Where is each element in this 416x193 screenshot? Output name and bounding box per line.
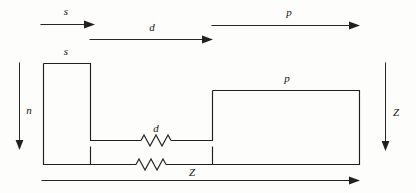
label-top-p: p	[285, 6, 292, 18]
arrowhead-bottom-z	[349, 177, 360, 185]
label-left-box-s: s	[64, 45, 68, 57]
arrowhead-p	[349, 22, 360, 30]
upper-zigzag-resistor	[141, 135, 171, 146]
schematic-diagram: s d p s p n Z d Z	[0, 0, 416, 193]
arrowhead-d	[202, 36, 213, 44]
top-dimension-arrow-p	[212, 22, 360, 30]
right-vertical-arrow-z	[382, 63, 390, 151]
label-vertical-z: Z	[393, 106, 400, 118]
right-rectangle	[213, 91, 360, 165]
label-vertical-n: n	[26, 104, 32, 116]
arrowhead-n	[16, 140, 24, 150]
lower-zigzag-resistor	[136, 159, 166, 170]
upper-connector-line	[90, 135, 213, 146]
diagram-canvas: s d p s p n Z d Z	[0, 0, 416, 193]
arrowhead-right-z	[382, 141, 390, 151]
left-rectangle	[44, 64, 91, 165]
label-right-box-p: p	[283, 72, 290, 84]
label-bottom-z: Z	[189, 166, 196, 178]
left-vertical-arrow-n	[16, 63, 24, 150]
label-connector-d: d	[153, 122, 159, 134]
label-top-s: s	[64, 5, 68, 17]
bottom-span-arrow-z	[42, 177, 360, 185]
top-dimension-arrow-s	[41, 21, 95, 29]
top-dimension-arrow-d	[90, 36, 213, 44]
arrowhead-s	[84, 21, 95, 29]
label-top-d: d	[149, 21, 155, 33]
